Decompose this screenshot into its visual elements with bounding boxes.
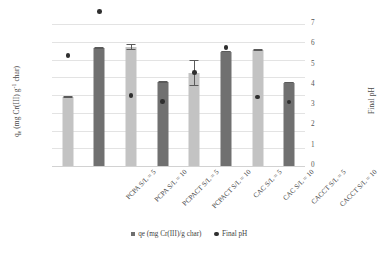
y-axis-right-tick: 6: [311, 39, 331, 47]
error-bar: [63, 96, 72, 98]
bar-qe: [94, 48, 105, 166]
x-axis-label: PCPA S/L = 5: [97, 168, 158, 229]
error-bar-cap-bottom: [63, 97, 72, 98]
x-axis-label: CAC S/L = 10: [255, 168, 316, 229]
legend-dot-icon: [214, 232, 219, 237]
bar-qe: [126, 47, 137, 166]
error-bar-cap-bottom: [190, 85, 199, 86]
marker-final-ph: [192, 70, 197, 75]
category-slot: [147, 24, 179, 166]
plot-area: 0.001.002.003.004.005.006.007.008.000123…: [52, 24, 305, 166]
chart-container: qe (mg Cr(III) g-1 char) Final pH 0.001.…: [0, 0, 378, 262]
category-slot: [52, 24, 84, 166]
category-slot: [273, 24, 305, 166]
error-bar-cap-bottom: [95, 48, 104, 49]
error-bar-cap-bottom: [285, 82, 294, 83]
gridline: [52, 166, 305, 167]
error-bar-cap-bottom: [221, 51, 230, 52]
bar-qe: [157, 82, 168, 166]
legend-item: qe (mg Cr(III)/g char): [131, 230, 202, 238]
marker-final-ph: [97, 9, 102, 14]
error-bar: [253, 49, 262, 51]
x-axis-label: PCPACT S/L = 10: [192, 168, 253, 229]
chart-legend: qe (mg Cr(III)/g char)Final pH: [0, 230, 378, 238]
category-slot: [210, 24, 242, 166]
legend-square-icon: [131, 232, 136, 237]
category-slot: [115, 24, 147, 166]
category-slot: [84, 24, 116, 166]
y-axis-right-title: Final pH: [367, 46, 376, 156]
x-axis-label: PCPACT S/L = 5: [160, 168, 221, 229]
x-axis-labels: PCPA S/L = 5PCPA S/L = 10PCPACT S/L = 5P…: [52, 168, 305, 226]
y-axis-right-tick: 2: [311, 120, 331, 128]
legend-label: Final pH: [222, 230, 247, 238]
y-axis-right-tick: 4: [311, 80, 331, 88]
error-bar-cap-bottom: [127, 49, 136, 50]
bar-qe: [252, 50, 263, 166]
error-bar-cap-top: [127, 44, 136, 45]
error-bar: [127, 44, 136, 49]
y-axis-left-title-main: (mg Cr(III) g: [12, 88, 21, 130]
error-bar-cap-bottom: [158, 82, 167, 83]
y-axis-left-title: qe (mg Cr(III) g-1 char): [11, 47, 22, 157]
legend-item: Final pH: [214, 230, 247, 238]
error-bar: [95, 47, 104, 49]
error-bar-cap-top: [190, 60, 199, 61]
bar-qe: [189, 73, 200, 166]
y-axis-right-tick: 0: [311, 161, 331, 169]
category-slot: [179, 24, 211, 166]
y-axis-left-title-suffix: char): [12, 66, 21, 84]
bar-qe: [220, 52, 231, 166]
y-axis-left-title-sub: e: [16, 131, 22, 134]
error-bar: [221, 51, 230, 53]
error-bar: [158, 81, 167, 83]
legend-label: qe (mg Cr(III)/g char): [138, 230, 201, 238]
y-axis-right-tick: 5: [311, 60, 331, 68]
y-axis-right-tick: 3: [311, 100, 331, 108]
marker-final-ph: [129, 93, 134, 98]
bar-qe: [284, 83, 295, 166]
y-axis-right-tick: 1: [311, 141, 331, 149]
x-axis-label: CACCT S/L = 5: [286, 168, 347, 229]
y-axis-right-tick: 7: [311, 19, 331, 27]
marker-final-ph: [160, 99, 165, 104]
error-bar-cap-bottom: [253, 50, 262, 51]
bar-qe: [62, 97, 73, 166]
marker-final-ph: [224, 45, 229, 50]
x-axis-label: CAC S/L = 5: [223, 168, 284, 229]
x-axis-label: CACCT S/L = 10: [318, 168, 378, 229]
y-axis-left-title-q: q: [12, 133, 21, 137]
y-axis-left-title-sup: -1: [11, 84, 17, 89]
x-axis-label: PCPA S/L = 10: [128, 168, 189, 229]
category-slot: [242, 24, 274, 166]
marker-final-ph: [255, 95, 260, 100]
error-bar: [285, 82, 294, 84]
marker-final-ph: [66, 53, 71, 58]
